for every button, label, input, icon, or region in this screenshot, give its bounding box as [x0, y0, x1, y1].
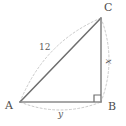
vertex-label-c: C	[104, 2, 112, 13]
hypotenuse-length-label: 12	[39, 43, 50, 52]
vertex-label-a: A	[5, 100, 13, 111]
side-hypotenuse	[20, 18, 101, 102]
vertical-leg-label: x	[104, 59, 113, 64]
horizontal-leg-label: y	[58, 110, 63, 119]
right-angle-marker	[94, 95, 101, 102]
geometry-figure: A B C 12 x y	[0, 0, 126, 126]
vertex-label-b: B	[108, 101, 116, 112]
